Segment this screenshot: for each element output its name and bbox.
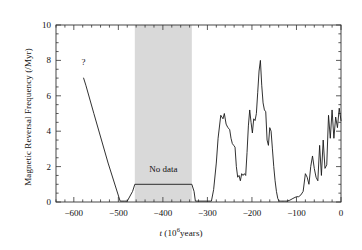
x-tick-label: 0	[339, 208, 344, 218]
y-axis-title: Magnetic Reversal Frequency (/Myr)	[23, 27, 33, 207]
x-tick-label: −100	[287, 208, 306, 218]
question-mark-annotation: ?	[82, 57, 86, 67]
x-tick-label: −300	[198, 208, 217, 218]
x-tick-label: −400	[154, 208, 173, 218]
data-series-group	[84, 60, 341, 201]
x-axis-close: years)	[180, 228, 203, 238]
axis-ticks	[56, 25, 341, 202]
x-axis-open: (10	[162, 228, 177, 238]
x-tick-label: −200	[243, 208, 262, 218]
no-data-band-group	[135, 25, 192, 202]
chart-plot	[0, 0, 362, 250]
no-data-annotation: No data	[149, 164, 177, 174]
x-tick-label: −600	[65, 208, 84, 218]
x-axis-title: t (106years)	[0, 226, 362, 238]
x-tick-label: −500	[109, 208, 128, 218]
figure-container: −600−500−400−300−200−10000246810 Magneti…	[0, 0, 362, 250]
axis-frame	[56, 25, 341, 202]
